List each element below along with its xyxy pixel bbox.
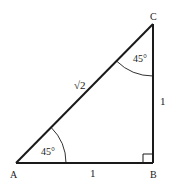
right-angle-marker [143,154,153,163]
angle-label-a: 45° [41,146,55,157]
triangle-svg: A B C 45° 45° √2 1 1 [0,0,170,183]
side-label-ac: √2 [74,79,86,91]
side-label-ab: 1 [90,167,96,179]
vertex-label-c: C [150,11,157,22]
vertex-label-a: A [10,169,18,180]
side-ac-hypotenuse [16,24,153,163]
angle-label-c: 45° [133,53,147,64]
side-label-bc: 1 [160,95,166,107]
vertex-label-b: B [150,169,157,180]
triangle-diagram: A B C 45° 45° √2 1 1 [0,0,170,183]
